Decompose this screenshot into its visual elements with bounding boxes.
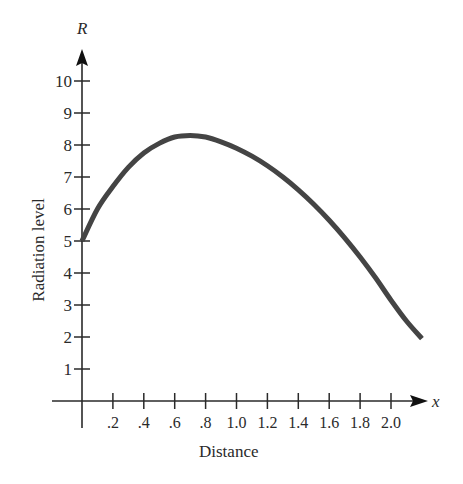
y-tick-label: 8 bbox=[64, 136, 73, 155]
x-tick-label: 1.2 bbox=[257, 414, 277, 431]
x-tick-label: 1.4 bbox=[288, 414, 308, 431]
chart: .2.4.6.81.01.21.41.61.82.0 12345678910 x… bbox=[0, 0, 463, 484]
y-tick-label: 4 bbox=[64, 264, 73, 283]
x-tick-label: .6 bbox=[169, 414, 181, 431]
x-tick-label: 1.6 bbox=[319, 414, 339, 431]
y-axis-symbol: R bbox=[76, 19, 88, 38]
y-tick-label: 5 bbox=[64, 232, 73, 251]
y-tick-label: 2 bbox=[64, 328, 73, 347]
y-tick-label: 3 bbox=[64, 296, 73, 315]
axes bbox=[52, 49, 428, 428]
x-axis-symbol: x bbox=[431, 392, 440, 411]
x-tick-label: .4 bbox=[138, 414, 150, 431]
y-tick-label: 1 bbox=[64, 360, 73, 379]
x-tick-label: 2.0 bbox=[381, 414, 401, 431]
y-ticks: 12345678910 bbox=[55, 72, 90, 379]
y-tick-label: 7 bbox=[64, 168, 73, 187]
y-tick-label: 9 bbox=[64, 104, 73, 123]
x-tick-label: .8 bbox=[200, 414, 212, 431]
x-tick-label: .2 bbox=[107, 414, 119, 431]
x-ticks: .2.4.6.81.01.21.41.61.82.0 bbox=[107, 393, 401, 431]
data-curve bbox=[82, 135, 422, 338]
x-tick-label: 1.0 bbox=[227, 414, 247, 431]
y-tick-label: 10 bbox=[55, 72, 72, 91]
y-axis-label: Radiation level bbox=[29, 198, 48, 302]
x-axis-label: Distance bbox=[199, 442, 258, 461]
x-tick-label: 1.8 bbox=[350, 414, 370, 431]
y-tick-label: 6 bbox=[64, 200, 73, 219]
